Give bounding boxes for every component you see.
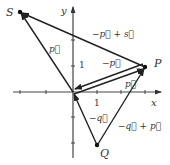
- x-tick-label-1: 1: [94, 99, 100, 108]
- label-vector-neg-q-plus-p: −q⃗ + p⃗: [118, 122, 161, 131]
- label-Q: Q: [100, 148, 109, 159]
- vector-diagram: [0, 0, 170, 165]
- vector-neg-p-plus-s: [22, 13, 145, 67]
- y-axis-label: y: [61, 6, 67, 16]
- label-P: P: [154, 58, 161, 69]
- x-axis-label: x: [151, 98, 157, 108]
- point-P: [143, 65, 147, 69]
- label-vector-s: p⃗: [49, 45, 60, 54]
- label-S: S: [6, 7, 14, 18]
- label-vector-neg-p: −p⃗: [102, 59, 121, 68]
- label-vector-p: p⃗: [125, 80, 136, 89]
- y-tick-label-1: 1: [79, 61, 85, 70]
- label-vector-neg-p-plus-s: −p⃗ + s⃗: [92, 30, 134, 39]
- vector-s: [21, 13, 73, 92]
- label-vector-neg-q: −q⃗: [89, 114, 108, 123]
- vector-neg-q-plus-p: [98, 69, 144, 144]
- point-S: [18, 10, 22, 14]
- point-Q: [95, 143, 99, 147]
